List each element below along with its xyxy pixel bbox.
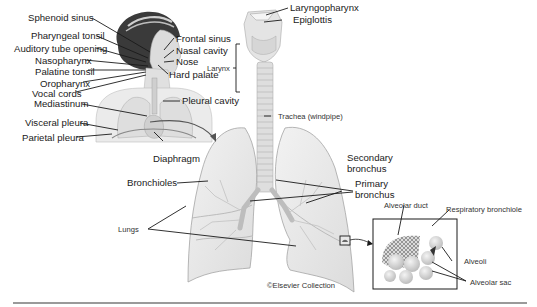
label-frontal-sinus: Frontal sinus bbox=[176, 33, 231, 44]
label-alveolar-sac: Alveolar sac bbox=[470, 277, 511, 288]
lungs-figure bbox=[188, 127, 373, 292]
label-secondary-bronchus-line1: Secondary bbox=[347, 152, 393, 163]
label-alveolar-duct: Alveolar duct bbox=[384, 200, 428, 211]
label-sphenoid-sinus: Sphenoid sinus bbox=[28, 12, 94, 23]
alveoli-inset bbox=[373, 219, 457, 289]
label-nose: Nose bbox=[176, 56, 198, 67]
label-pleural-cavity: Pleural cavity bbox=[182, 95, 239, 106]
label-epiglottis: Epiglottis bbox=[293, 14, 332, 25]
label-laryngopharynx: Laryngopharynx bbox=[290, 2, 359, 13]
label-bronchioles: Bronchioles bbox=[127, 177, 177, 188]
label-nasal-cavity: Nasal cavity bbox=[176, 45, 228, 56]
label-mediastinum: Mediastinum bbox=[34, 98, 88, 109]
label-respiratory-bronchiole: Respiratory bronchiole bbox=[446, 204, 522, 215]
label-parietal-pleura: Parietal pleura bbox=[22, 132, 84, 143]
label-diaphragm: Diaphragm bbox=[153, 153, 200, 164]
label-visceral-pleura: Visceral pleura bbox=[25, 117, 88, 128]
respiratory-diagram: Sphenoid sinus Pharyngeal tonsil Auditor… bbox=[0, 0, 537, 307]
label-secondary-bronchus-line2: bronchus bbox=[347, 163, 386, 174]
label-palatine-tonsil: Palatine tonsil bbox=[35, 66, 95, 77]
label-alveoli: Alveoli bbox=[464, 256, 486, 267]
label-larynx: Larynx bbox=[207, 63, 230, 74]
label-pharyngeal-tonsil: Pharyngeal tonsil bbox=[31, 30, 105, 41]
label-primary-bronchus-line1: Primary bbox=[355, 178, 388, 189]
label-trachea: Trachea (windpipe) bbox=[278, 111, 343, 122]
bottom-divider bbox=[13, 302, 527, 304]
label-primary-bronchus-line2: bronchus bbox=[355, 189, 394, 200]
copyright-notice: ©Elsevier Collection bbox=[267, 281, 335, 290]
label-lungs: Lungs bbox=[118, 224, 139, 235]
label-auditory-tube-opening: Auditory tube opening bbox=[14, 43, 107, 54]
label-nasopharynx: Nasopharynx bbox=[35, 55, 92, 66]
